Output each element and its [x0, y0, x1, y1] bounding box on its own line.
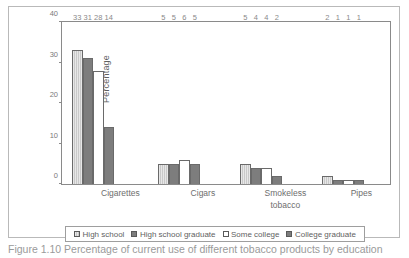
- plot-area: Percentage 010203040 3331281455655442211…: [61, 21, 391, 185]
- legend-swatch-icon: [131, 231, 137, 237]
- x-axis-category-label-line: Pipes: [351, 188, 372, 198]
- y-axis-tick-label: 0: [54, 171, 58, 180]
- x-axis-category-label: Smokelesstobacco: [245, 187, 325, 211]
- x-axis-category-label-line: tobacco: [245, 199, 325, 211]
- bar-value-label: 4: [251, 14, 262, 22]
- bar-slot[interactable]: 1: [343, 22, 354, 184]
- bar-group: 33312814: [62, 22, 144, 184]
- bar-value-label: 2: [322, 14, 333, 22]
- bar-value-label: 1: [354, 14, 365, 22]
- bar-slot[interactable]: 1: [333, 22, 344, 184]
- bar-value-label: 5: [169, 14, 180, 22]
- legend-item[interactable]: High school graduate: [131, 230, 215, 239]
- bar[interactable]: 14: [104, 127, 115, 184]
- bar-slot[interactable]: 14: [104, 22, 115, 184]
- bar-group: 5442: [226, 22, 308, 184]
- bar[interactable]: 6: [179, 160, 190, 184]
- figure-caption: Figure 1.10 Percentage of current use of…: [8, 243, 404, 256]
- bar-value-label: 14: [104, 14, 115, 22]
- legend-label: High school graduate: [140, 230, 216, 239]
- bar-slot[interactable]: 28: [93, 22, 104, 184]
- bar-group: 5565: [144, 22, 226, 184]
- legend-item[interactable]: College graduate: [286, 230, 355, 239]
- x-axis-category-label: Pipes: [321, 187, 401, 199]
- x-axis-labels: CigarettesCigarsSmokelesstobaccoPipes: [61, 187, 391, 221]
- bar[interactable]: 28: [93, 71, 104, 184]
- y-axis-tick-label: 40: [50, 9, 58, 18]
- bar-value-label: 2: [272, 14, 283, 22]
- bar-value-label: 6: [179, 14, 190, 22]
- bar-slot[interactable]: 4: [251, 22, 262, 184]
- figure-frame: Percentage 010203040 3331281455655442211…: [8, 6, 400, 238]
- x-axis-category-label-line: Cigarettes: [101, 188, 140, 198]
- bar[interactable]: 5: [158, 164, 169, 184]
- bar-slot[interactable]: 5: [158, 22, 169, 184]
- x-axis-category-label: Cigarettes: [80, 187, 160, 199]
- bar-value-label: 5: [240, 14, 251, 22]
- bar[interactable]: 1: [354, 180, 365, 184]
- bar-value-label: 31: [83, 14, 94, 22]
- bar-slot[interactable]: 2: [322, 22, 333, 184]
- x-axis-category-label-line: Cigars: [191, 188, 216, 198]
- bar-slot[interactable]: 5: [240, 22, 251, 184]
- bar[interactable]: 1: [343, 180, 354, 184]
- legend-swatch-icon: [286, 231, 292, 237]
- bar[interactable]: 2: [272, 176, 283, 184]
- bar[interactable]: 2: [322, 176, 333, 184]
- legend-label: Some college: [231, 230, 279, 239]
- bar-value-label: 1: [333, 14, 344, 22]
- legend-label: High school: [83, 230, 125, 239]
- bar-slot[interactable]: 33: [72, 22, 83, 184]
- bar-slot[interactable]: 5: [169, 22, 180, 184]
- x-axis-category-label-line: Smokeless: [265, 188, 307, 198]
- bar-slot[interactable]: 1: [354, 22, 365, 184]
- bar-value-label: 5: [190, 14, 201, 22]
- legend-item[interactable]: High school: [74, 230, 124, 239]
- legend-swatch-icon: [74, 231, 80, 237]
- y-axis-tick-label: 20: [50, 90, 58, 99]
- legend-label: College graduate: [295, 230, 356, 239]
- legend-swatch-icon: [223, 231, 229, 237]
- y-axis-tick-label: 30: [50, 49, 58, 58]
- bar[interactable]: 4: [261, 168, 272, 184]
- bar-slot[interactable]: 31: [83, 22, 94, 184]
- bar-value-label: 28: [93, 14, 104, 22]
- bar-value-label: 4: [261, 14, 272, 22]
- bar-slot[interactable]: 4: [261, 22, 272, 184]
- bar[interactable]: 5: [240, 164, 251, 184]
- bar-slot[interactable]: 6: [179, 22, 190, 184]
- bar-groups: 33312814556554422111: [62, 22, 390, 184]
- bar-value-label: 5: [158, 14, 169, 22]
- y-axis-tick-label: 10: [50, 130, 58, 139]
- bar[interactable]: 5: [190, 164, 201, 184]
- bar[interactable]: 4: [251, 168, 262, 184]
- legend-item[interactable]: Some college: [223, 230, 280, 239]
- x-axis-category-label: Cigars: [163, 187, 243, 199]
- bar[interactable]: 1: [333, 180, 344, 184]
- bar-group: 2111: [308, 22, 390, 184]
- bar[interactable]: 33: [72, 50, 83, 184]
- bar[interactable]: 5: [169, 164, 180, 184]
- bar-slot[interactable]: 5: [190, 22, 201, 184]
- bar-value-label: 33: [72, 14, 83, 22]
- bar[interactable]: 31: [83, 58, 94, 184]
- chart-legend: High schoolHigh school graduateSome coll…: [65, 226, 365, 242]
- bar-slot[interactable]: 2: [272, 22, 283, 184]
- bar-value-label: 1: [343, 14, 354, 22]
